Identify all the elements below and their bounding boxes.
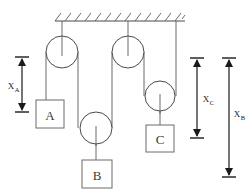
- block-a-label: A: [45, 108, 55, 123]
- dim-xc-label: X: [203, 94, 210, 104]
- block-c-label: C: [156, 132, 165, 147]
- dim-xb-subscript: B: [241, 114, 246, 121]
- dim-xa-bottom-arrowhead: [18, 103, 26, 111]
- dim-xb-bottom-arrowhead: [225, 168, 233, 176]
- dim-xb-label: X: [234, 109, 241, 119]
- block-b-label: B: [93, 168, 102, 183]
- dim-xc-bottom-arrowhead: [193, 129, 201, 137]
- dim-xb-top-arrowhead: [225, 59, 233, 67]
- block-a-group: A: [36, 100, 64, 128]
- ceiling-support: [55, 13, 185, 21]
- pulley-diagram-figure: A B C X A X C: [0, 0, 248, 192]
- dim-xc-top-arrowhead: [193, 59, 201, 67]
- dimension-xa: X A: [8, 57, 29, 112]
- dimension-xc: X C: [190, 58, 214, 138]
- ceiling-hatching: [55, 13, 185, 21]
- dim-xa-top-arrowhead: [18, 58, 26, 66]
- pulley-system-diagram: A B C X A X C: [0, 0, 248, 192]
- dim-xa-subscript: A: [15, 86, 20, 93]
- dim-xc-subscript: C: [210, 99, 214, 106]
- dimension-xb: X B: [222, 58, 246, 177]
- block-b-group: B: [82, 160, 112, 188]
- block-c-group: C: [146, 125, 174, 152]
